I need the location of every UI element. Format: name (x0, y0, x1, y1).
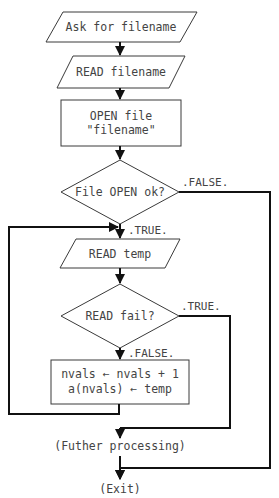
node-ask-for-filename: Ask for filename (46, 12, 197, 42)
node-read-temp: READ temp (60, 239, 180, 268)
edge-label-false: .FALSE. (182, 176, 228, 189)
node-label: READ filename (76, 65, 166, 79)
node-label-line-1: OPEN file (90, 109, 152, 123)
node-read-fail: READ fail? (61, 284, 179, 348)
node-open-file: OPEN file "filename" (61, 100, 181, 146)
edge-label-true: .TRUE. (181, 300, 221, 313)
flowchart: Ask for filename READ filename OPEN file… (0, 0, 279, 498)
edge-label-true: .TRUE. (128, 224, 168, 237)
node-label-line-2: a(nvals) ← temp (68, 382, 172, 396)
node-store-value: nvals ← nvals + 1 a(nvals) ← temp (51, 360, 189, 404)
node-label: READ fail? (85, 309, 154, 323)
edge-label-false: .FALSE. (128, 347, 174, 360)
node-label: READ temp (89, 247, 151, 261)
node-file-open-ok: File OPEN ok? (61, 160, 179, 224)
node-further-processing: (Futher processing) (54, 439, 186, 453)
node-label-line-2: "filename" (86, 123, 155, 137)
node-label: File OPEN ok? (75, 185, 165, 199)
node-exit: (Exit) (99, 482, 141, 496)
node-label-line-1: nvals ← nvals + 1 (61, 367, 179, 381)
node-read-filename: READ filename (57, 56, 185, 88)
node-label: Ask for filename (66, 20, 177, 34)
